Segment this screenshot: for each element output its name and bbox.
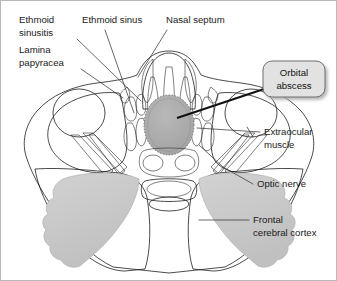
frontal-lobe-left (43, 173, 139, 267)
label-ethmoid-sinusitis-line-1: Ethmoid (19, 14, 54, 25)
leader-lamina-papyracea (81, 69, 123, 98)
left-globe (53, 89, 105, 137)
label-nasal-septum-line-1: Nasal septum (166, 14, 225, 25)
label-optic-nerve-line-1: Optic nerve (257, 178, 306, 189)
callout-line-1: Orbital (280, 67, 308, 78)
label-extraocular-muscle: Extraocular muscle (264, 126, 313, 150)
label-lamina-papyracea-line-2: papyracea (19, 57, 64, 68)
label-frontal-cortex-line-1: Frontal (253, 214, 283, 225)
leader-ethmoid-sinusitis (77, 39, 141, 101)
anatomical-figure: Orbital abscess Ethmoid sinusitis Lamina… (0, 0, 337, 281)
leader-extraocular-muscle (197, 128, 260, 132)
label-extraocular-muscle-line-2: muscle (264, 139, 294, 150)
label-ethmoid-sinus-line-1: Ethmoid sinus (82, 14, 142, 25)
central-skull-base (141, 179, 196, 211)
label-extraocular-muscle-line-1: Extraocular (264, 126, 313, 137)
optic-nerve-left (89, 135, 125, 175)
orbital-abscess-callout[interactable]: Orbital abscess (263, 61, 325, 97)
label-ethmoid-sinus: Ethmoid sinus (82, 14, 142, 25)
leader-ethmoid-sinus (105, 30, 134, 113)
callout-line-2: abscess (276, 80, 311, 91)
leader-nasal-septum (138, 30, 167, 77)
label-lamina-papyracea-line-1: Lamina (19, 44, 51, 55)
label-ethmoid-sinusitis: Ethmoid sinusitis (19, 14, 54, 38)
leader-extraocular-muscle-tick (247, 127, 253, 137)
label-optic-nerve: Optic nerve (257, 178, 306, 189)
label-nasal-septum: Nasal septum (166, 14, 225, 25)
optic-nerve-right (213, 135, 249, 175)
label-lamina-papyracea: Lamina papyracea (19, 44, 64, 68)
orbital-abscess-mass (144, 95, 194, 155)
label-frontal-cortex-line-2: cerebral cortex (253, 227, 317, 238)
label-ethmoid-sinusitis-line-2: sinusitis (19, 27, 53, 38)
